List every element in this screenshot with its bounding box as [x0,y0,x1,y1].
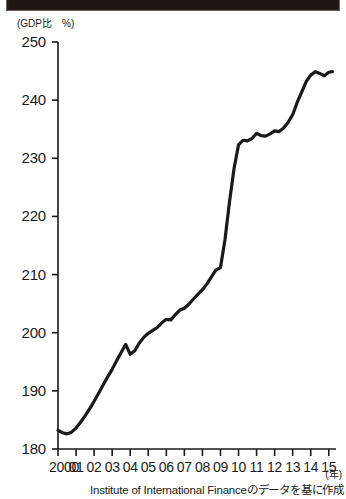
source-note: Institute of International Financeのデータを基… [0,481,344,497]
debt-ratio-line [58,72,332,434]
y-axis-ticks [52,42,58,449]
line-chart [0,0,346,499]
y-tick-label: 210 [4,266,46,283]
chart-series-group [58,72,332,434]
y-tick-label: 190 [4,382,46,399]
y-tick-label: 180 [4,440,46,457]
y-tick-label: 230 [4,149,46,166]
y-tick-label: 240 [4,91,46,108]
y-tick-label: 200 [4,324,46,341]
y-tick-label: 250 [4,33,46,50]
x-axis-ticks [58,449,329,456]
x-tick-label: 15 [318,459,340,475]
y-tick-label: 220 [4,207,46,224]
